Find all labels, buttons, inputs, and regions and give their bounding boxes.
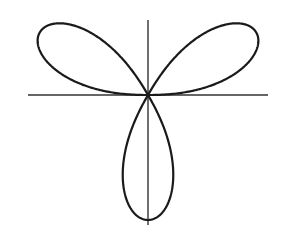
rose-curve-diagram [0,0,289,247]
